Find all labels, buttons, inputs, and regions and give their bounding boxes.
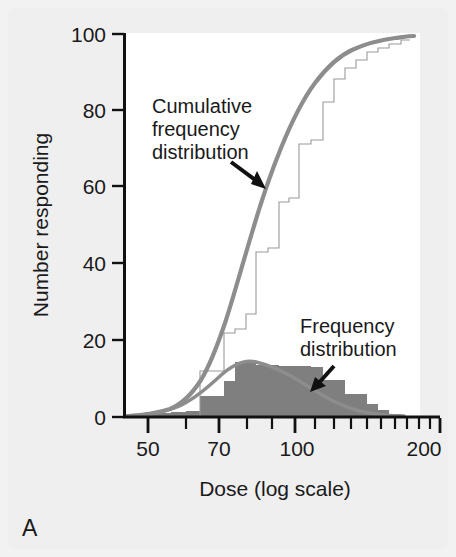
x-axis-title: Dose (log scale) bbox=[199, 477, 351, 500]
annotation-cumulative-line1: Cumulative bbox=[152, 95, 252, 117]
annotation-cumulative-line3: distribution bbox=[152, 141, 249, 163]
y-axis-ticks bbox=[112, 34, 124, 417]
x-tick-label-100: 100 bbox=[279, 437, 314, 460]
figure-container: 0 20 40 60 80 100 50 bbox=[0, 0, 456, 557]
panel-label: A bbox=[22, 515, 38, 541]
annotation-frequency-line1: Frequency bbox=[300, 315, 395, 337]
x-tick-label-70: 70 bbox=[207, 437, 230, 460]
y-tick-label-40: 40 bbox=[83, 252, 106, 275]
y-tick-label-0: 0 bbox=[94, 406, 106, 429]
dose-response-chart: 0 20 40 60 80 100 50 bbox=[0, 0, 456, 557]
y-tick-label-80: 80 bbox=[83, 99, 106, 122]
x-axis-tick-labels: 50 70 100 200 bbox=[136, 437, 441, 460]
x-tick-label-50: 50 bbox=[136, 437, 159, 460]
annotation-cumulative-line2: frequency bbox=[152, 118, 240, 140]
annotation-frequency-line2: distribution bbox=[300, 338, 397, 360]
y-axis-title: Number responding bbox=[29, 133, 52, 317]
y-tick-label-60: 60 bbox=[83, 175, 106, 198]
y-tick-label-100: 100 bbox=[71, 23, 106, 46]
x-axis-ticks bbox=[148, 418, 440, 433]
y-axis-tick-labels: 0 20 40 60 80 100 bbox=[71, 23, 106, 429]
x-tick-label-200: 200 bbox=[406, 437, 441, 460]
y-tick-label-20: 20 bbox=[83, 329, 106, 352]
